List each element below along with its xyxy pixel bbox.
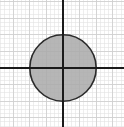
graph-figure bbox=[0, 0, 124, 127]
coordinate-plane-svg bbox=[0, 0, 124, 127]
